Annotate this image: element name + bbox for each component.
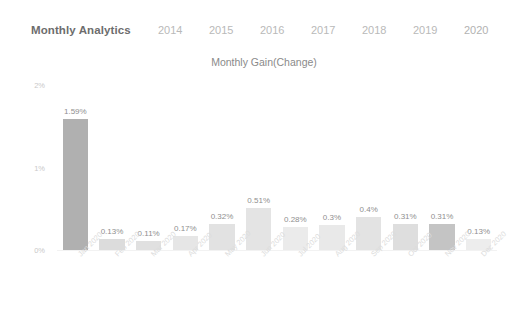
- bar-value-label: 0.31%: [394, 212, 417, 221]
- bar-group: 0.4%: [356, 85, 382, 250]
- bar-group: 0.51%: [246, 85, 272, 250]
- year-tab-2015[interactable]: 2015: [196, 20, 247, 40]
- bar-value-label: 0.13%: [101, 227, 124, 236]
- bar-group: 0.11%: [136, 85, 162, 250]
- analytics-page: Monthly Analytics 2014201520162017201820…: [0, 0, 528, 315]
- year-tab-2016[interactable]: 2016: [247, 20, 298, 40]
- bar-group: 0.17%: [173, 85, 199, 250]
- bar-value-label: 0.28%: [284, 215, 307, 224]
- chart-panel: Monthly Gain(Change) 0%1%2% 1.59%0.13%0.…: [0, 46, 528, 315]
- bar-group: 0.31%: [429, 85, 455, 250]
- bar-value-label: 0.3%: [323, 213, 341, 222]
- year-tab-2017[interactable]: 2017: [298, 20, 349, 40]
- year-tab-2020[interactable]: 2020: [451, 20, 502, 40]
- bar-group: 0.13%: [466, 85, 492, 250]
- bar-group: 0.32%: [209, 85, 235, 250]
- page-header: Monthly Analytics 2014201520162017201820…: [0, 14, 528, 46]
- bar-value-label: 0.4%: [360, 205, 378, 214]
- year-tab-2019[interactable]: 2019: [400, 20, 451, 40]
- bar-series: 1.59%0.13%0.11%0.17%0.32%0.51%0.28%0.3%0…: [57, 85, 497, 250]
- bar-group: 1.59%: [63, 85, 89, 250]
- bar-value-label: 1.59%: [64, 107, 87, 116]
- year-tab-2014[interactable]: 2014: [145, 20, 196, 40]
- bar-value-label: 0.31%: [431, 212, 454, 221]
- y-axis: 0%1%2%: [0, 85, 57, 250]
- year-tab-bar: 2014201520162017201820192020: [145, 20, 502, 40]
- chart-title: Monthly Gain(Change): [0, 56, 528, 68]
- bar-value-label: 0.51%: [247, 196, 270, 205]
- bar-group: 0.13%: [99, 85, 125, 250]
- x-axis: Jan 2020Feb 2020Mar 2020Apr 2020May 2020…: [57, 252, 497, 312]
- bar-group: 0.3%: [319, 85, 345, 250]
- year-tab-2018[interactable]: 2018: [349, 20, 400, 40]
- y-axis-tick-label: 0%: [34, 246, 45, 255]
- y-axis-tick-label: 2%: [34, 81, 45, 90]
- bar-value-label: 0.17%: [174, 224, 197, 233]
- page-title: Monthly Analytics: [31, 24, 131, 36]
- bar[interactable]: [63, 119, 89, 250]
- bar-group: 0.28%: [283, 85, 309, 250]
- bar-value-label: 0.32%: [211, 212, 234, 221]
- bar-group: 0.31%: [393, 85, 419, 250]
- y-axis-tick-label: 1%: [34, 163, 45, 172]
